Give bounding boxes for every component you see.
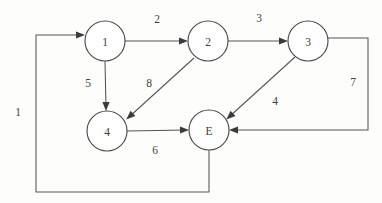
edge-2-arrowhead	[179, 37, 188, 44]
edge-8-label: 8	[146, 77, 152, 89]
node-3-label: 3	[305, 36, 311, 48]
edge-3: 3	[228, 12, 288, 45]
edge-2: 2	[125, 13, 188, 45]
edge-5-arrowhead	[102, 102, 109, 111]
edge-2-label: 2	[154, 13, 160, 25]
node-E[interactable]: E	[189, 110, 229, 150]
edge-3-arrowhead	[279, 37, 288, 44]
node-1[interactable]: 1	[85, 21, 125, 61]
edge-5-label: 5	[85, 77, 91, 89]
edge-3-label: 3	[256, 12, 262, 24]
edge-4-path	[229, 57, 295, 117]
edge-1-arrowhead	[76, 31, 85, 38]
node-3[interactable]: 3	[288, 21, 328, 61]
edge-4: 4	[226, 57, 295, 120]
node-4[interactable]: 4	[87, 111, 127, 151]
edge-8-path	[129, 58, 194, 117]
edge-6-label: 6	[152, 144, 158, 156]
node-E-label: E	[205, 125, 212, 137]
edge-8: 8	[126, 58, 194, 120]
diagram-canvas: 1 2 3 5 8 6	[0, 0, 382, 203]
edge-5: 5	[85, 61, 109, 111]
graph-svg: 1 2 3 5 8 6	[0, 0, 382, 203]
node-1-label: 1	[102, 36, 108, 48]
edge-1-label: 1	[15, 106, 21, 118]
node-4-label: 4	[104, 126, 110, 138]
edge-7-label: 7	[350, 76, 356, 88]
edge-6-arrowhead	[180, 126, 189, 133]
node-2[interactable]: 2	[188, 21, 228, 61]
edge-7-arrowhead	[229, 126, 238, 133]
edge-1-path	[36, 35, 209, 192]
edge-6: 6	[127, 126, 189, 156]
edge-6-path	[127, 130, 186, 131]
edge-5-path	[105, 61, 106, 108]
edge-4-label: 4	[272, 95, 278, 107]
node-2-label: 2	[205, 36, 211, 48]
